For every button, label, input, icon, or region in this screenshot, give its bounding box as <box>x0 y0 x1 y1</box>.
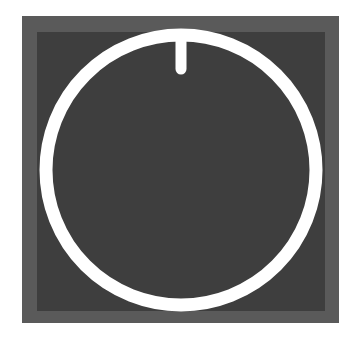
power-ring <box>46 35 316 305</box>
power-icon[interactable] <box>0 0 355 342</box>
